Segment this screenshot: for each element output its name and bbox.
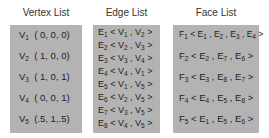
vertex-row: V3 ( 1, 0, 1) xyxy=(19,71,82,83)
symbol: E1 xyxy=(198,29,207,39)
subscript: 2 xyxy=(124,44,128,51)
symbol: E4 xyxy=(199,92,209,103)
subscript: 8 xyxy=(241,97,245,104)
subscript: 6 xyxy=(241,118,245,125)
subscript: 3 xyxy=(124,57,128,64)
subscript: 5 xyxy=(141,122,145,129)
subscript: 4 xyxy=(252,33,256,40)
subscript: 3 xyxy=(236,33,240,40)
face-row: F5 < E1 , E5 , E6 > xyxy=(179,113,259,125)
symbol: V5 xyxy=(135,79,145,89)
symbol: V4 xyxy=(19,92,29,103)
subscript: 6 xyxy=(104,96,108,103)
subscript: 2 xyxy=(185,55,189,62)
vertex-row: V1 ( 0, 0, 0) xyxy=(19,29,82,41)
subscript: 3 xyxy=(206,76,210,83)
subscript: 5 xyxy=(104,83,108,90)
symbol: E7 xyxy=(98,105,108,115)
symbol: E2 xyxy=(98,40,108,50)
symbol: V2 xyxy=(118,40,128,50)
symbol: E1 xyxy=(199,113,209,124)
symbol: E5 xyxy=(217,92,227,103)
subscript: 5 xyxy=(224,97,228,104)
subscript: 7 xyxy=(224,55,228,62)
symbol: E2 xyxy=(199,50,209,61)
symbol: E8 xyxy=(217,71,227,82)
subscript: 3 xyxy=(141,44,145,51)
subscript: 4 xyxy=(124,122,128,129)
subscript: 2 xyxy=(104,44,108,51)
vertex-list-box: V1 ( 0, 0, 0)V2 ( 1, 0, 0)V3 ( 1, 0, 1)V… xyxy=(10,25,82,133)
symbol: F4 xyxy=(179,92,188,103)
subscript: 1 xyxy=(104,31,108,38)
subscript: 3 xyxy=(185,76,189,83)
subscript: 2 xyxy=(141,31,145,38)
face-list-title: Face List xyxy=(173,7,259,18)
symbol: V3 xyxy=(135,40,145,50)
subscript: 4 xyxy=(141,57,145,64)
subscript: 2 xyxy=(124,96,128,103)
symbol: E5 xyxy=(98,79,108,89)
edge-row: E7 < V3 , V5 > xyxy=(98,105,160,116)
symbol: E7 xyxy=(217,50,227,61)
symbol: F5 xyxy=(179,113,188,124)
symbol: V3 xyxy=(19,71,29,82)
subscript: 8 xyxy=(224,76,228,83)
symbol: F1 xyxy=(179,29,188,39)
subscript: 5 xyxy=(141,109,145,116)
subscript: 5 xyxy=(141,96,145,103)
subscript: 8 xyxy=(104,122,108,129)
edge-row: E4 < V4 , V1 > xyxy=(98,66,160,77)
symbol: V4 xyxy=(118,118,128,128)
face-row: F3 < E3 , E8 , E7 > xyxy=(179,71,259,83)
face-row: F2 < E2 , E7 , E6 > xyxy=(179,50,259,62)
symbol: E4 xyxy=(247,29,256,39)
vertex-coords: ( 1, 0, 1) xyxy=(29,71,70,82)
edge-row: E6 < V2 , V5 > xyxy=(98,92,160,103)
subscript: 4 xyxy=(124,70,128,77)
symbol: V5 xyxy=(135,118,145,128)
symbol: E8 xyxy=(235,92,245,103)
subscript: 1 xyxy=(124,31,128,38)
symbol: E5 xyxy=(217,113,227,124)
subscript: 1 xyxy=(203,33,207,40)
subscript: 2 xyxy=(206,55,210,62)
vertex-coords: ( 1, 0, 0) xyxy=(29,50,70,61)
subscript: 4 xyxy=(104,70,108,77)
face-row: F4 < E4 , E5 , E8 > xyxy=(179,92,259,104)
symbol: V1 xyxy=(118,27,128,37)
vertex-row: V2 ( 1, 0, 0) xyxy=(19,50,82,62)
subscript: 1 xyxy=(141,70,145,77)
edge-row: E1 < V1 , V2 > xyxy=(98,27,160,38)
symbol: V2 xyxy=(19,50,29,61)
symbol: E3 xyxy=(98,53,108,63)
vertex-coords: ( 0, 0, 1) xyxy=(29,92,70,103)
vertex-coords: (.5, 1,.5) xyxy=(29,113,70,124)
vertex-coords: ( 0, 0, 0) xyxy=(29,29,70,40)
edge-row: E2 < V2 , V3 > xyxy=(98,40,160,51)
symbol: F3 xyxy=(179,71,188,82)
subscript: 1 xyxy=(184,33,188,40)
subscript: 1 xyxy=(124,83,128,90)
subscript: 2 xyxy=(220,33,224,40)
symbol: V3 xyxy=(118,105,128,115)
symbol: V1 xyxy=(19,29,29,40)
edge-row: E3 < V3 , V4 > xyxy=(98,53,160,64)
symbol: E7 xyxy=(235,71,245,82)
vertex-row: V5 (.5, 1,.5) xyxy=(19,113,82,125)
edge-row: E8 < V4 , V5 > xyxy=(98,118,160,129)
symbol: E4 xyxy=(98,66,108,76)
symbol: V2 xyxy=(118,92,128,102)
symbol: V2 xyxy=(135,27,145,37)
symbol: V5 xyxy=(135,92,145,102)
symbol: E6 xyxy=(98,92,108,102)
subscript: 5 xyxy=(224,118,228,125)
symbol: V1 xyxy=(118,79,128,89)
subscript: 5 xyxy=(141,83,145,90)
subscript: 6 xyxy=(241,55,245,62)
symbol: E3 xyxy=(199,71,209,82)
symbol: V5 xyxy=(19,113,29,124)
edge-list-title: Edge List xyxy=(93,7,160,18)
symbol: V5 xyxy=(135,105,145,115)
subscript: 5 xyxy=(185,118,189,125)
